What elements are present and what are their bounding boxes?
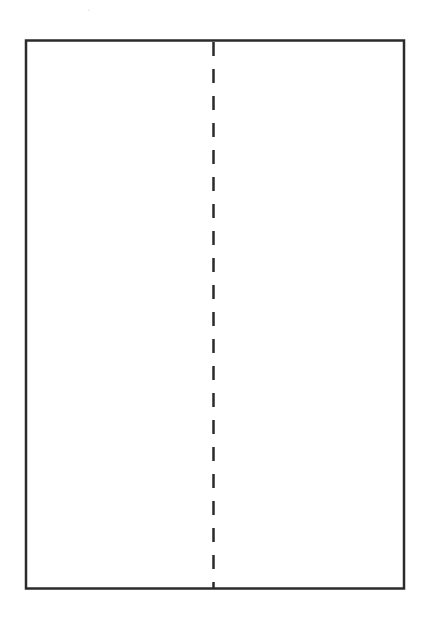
outer-rectangle — [26, 41, 404, 589]
diagram-canvas — [0, 0, 431, 622]
speck-mark — [88, 9, 89, 10]
